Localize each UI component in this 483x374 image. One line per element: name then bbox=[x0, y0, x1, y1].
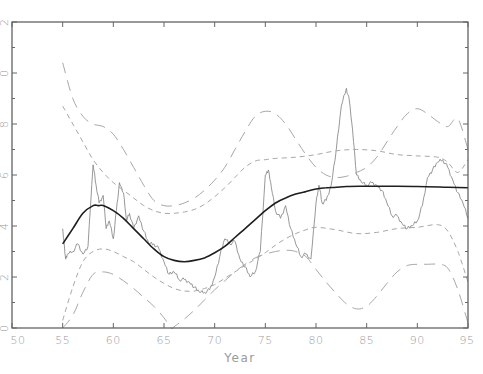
series-inner-lower-band bbox=[63, 225, 468, 321]
x-tick-label: 60 bbox=[106, 334, 121, 347]
x-tick-label: 65 bbox=[157, 334, 172, 347]
x-tick-label: 85 bbox=[359, 334, 374, 347]
y-tick-label: 0 bbox=[0, 325, 11, 333]
x-tick-label: 70 bbox=[207, 334, 222, 347]
y-tick-label: 4 bbox=[0, 223, 11, 231]
series-observed bbox=[63, 88, 468, 293]
x-axis-title: Year bbox=[223, 351, 255, 365]
plot-frame bbox=[12, 22, 468, 328]
y-tick-label: 2 bbox=[0, 19, 11, 27]
y-tick-label: 8 bbox=[0, 121, 11, 129]
series-layer bbox=[63, 63, 468, 329]
y-tick-label: 6 bbox=[0, 172, 11, 180]
x-tick-label: 75 bbox=[258, 334, 273, 347]
x-tick-label: 55 bbox=[55, 334, 70, 347]
y-tick-label: 2 bbox=[0, 274, 11, 282]
x-axis-tick-labels: 50556065707580859095 bbox=[11, 334, 475, 347]
y-axis-tick-labels: 2086420 bbox=[0, 19, 11, 333]
y-tick-label: 0 bbox=[0, 70, 11, 78]
series-inner-upper-band bbox=[63, 106, 468, 213]
series-smooth-fit bbox=[63, 186, 468, 262]
x-tick-label: 80 bbox=[309, 334, 324, 347]
series-outer-upper-band bbox=[63, 63, 468, 206]
axis-ticks bbox=[12, 22, 468, 328]
x-tick-label: 50 bbox=[11, 334, 26, 347]
x-tick-label: 95 bbox=[460, 334, 475, 347]
line-chart: 50556065707580859095 2086420 Year bbox=[0, 0, 483, 374]
series-outer-lower-band bbox=[63, 250, 468, 328]
x-tick-label: 90 bbox=[410, 334, 425, 347]
